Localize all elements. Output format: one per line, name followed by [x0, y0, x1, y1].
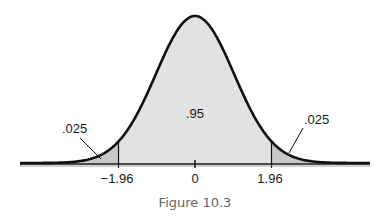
tick-label-neg-1-96: −1.96 — [101, 171, 134, 186]
right-tail-area-label: .025 — [304, 112, 329, 127]
center-area-label: .95 — [186, 106, 204, 121]
left-tail-area-label: .025 — [62, 121, 87, 136]
normal-distribution-chart: .025 .95 .025 −1.96 0 1.96 Figure 10.3 — [0, 0, 384, 219]
center-region — [119, 16, 272, 163]
left-tail-leader — [80, 138, 101, 159]
right-tail-leader — [289, 128, 303, 153]
figure-caption: Figure 10.3 — [159, 195, 232, 210]
tick-label-zero: 0 — [191, 171, 198, 186]
tick-label-1-96: 1.96 — [257, 171, 282, 186]
